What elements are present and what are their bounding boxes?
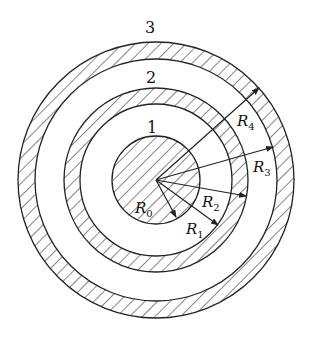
radius-label-R1: R1 bbox=[185, 220, 204, 240]
radius-label-R4: R4 bbox=[236, 112, 255, 132]
region-label-2: 2 bbox=[146, 68, 156, 87]
radius-label-R3: R3 bbox=[252, 158, 271, 178]
concentric-rings-diagram: R0R1R2R3R4123 bbox=[0, 0, 311, 337]
radius-label-R2: R2 bbox=[201, 193, 220, 213]
region-label-1: 1 bbox=[147, 118, 157, 137]
region-label-3: 3 bbox=[145, 18, 155, 37]
